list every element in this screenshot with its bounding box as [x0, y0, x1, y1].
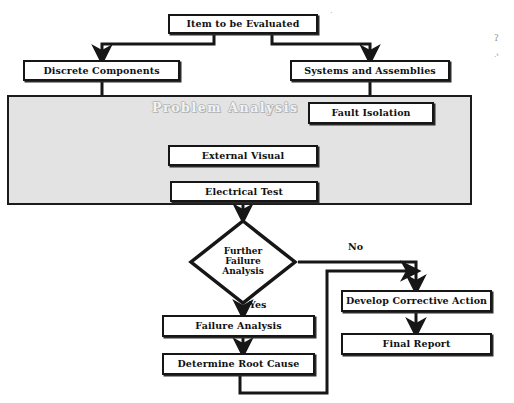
- node-fault-isolation[interactable]: Fault Isolation: [308, 102, 434, 124]
- scan-speck-icon-a: ʔ: [494, 33, 499, 43]
- node-fault-isolation-label: Fault Isolation: [331, 108, 410, 118]
- node-determine-root-cause[interactable]: Determine Root Cause: [162, 353, 315, 375]
- decision-label-line-3: Analysis: [222, 267, 264, 277]
- node-item-to-be-evaluated-label: Item to be Evaluated: [187, 19, 300, 29]
- node-final-report-label: Final Report: [383, 339, 451, 349]
- edge-label-no: No: [348, 241, 363, 252]
- node-external-visual[interactable]: External Visual: [168, 145, 318, 166]
- decision-label: Further Failure Analysis: [188, 218, 298, 306]
- node-systems-and-assemblies[interactable]: Systems and Assemblies: [290, 60, 450, 81]
- edge-item-to-systems: [272, 34, 370, 53]
- node-electrical-test-label: Electrical Test: [205, 187, 283, 197]
- node-determine-root-cause-label: Determine Root Cause: [178, 359, 300, 369]
- node-failure-analysis-label: Failure Analysis: [195, 321, 281, 331]
- node-develop-corrective-action[interactable]: Develop Corrective Action: [341, 290, 492, 312]
- edge-label-yes: Yes: [249, 299, 266, 310]
- node-failure-analysis[interactable]: Failure Analysis: [162, 315, 315, 337]
- problem-analysis-band-label: Problem Analysis: [152, 100, 299, 115]
- node-electrical-test[interactable]: Electrical Test: [170, 181, 318, 202]
- node-item-to-be-evaluated[interactable]: Item to be Evaluated: [168, 14, 318, 34]
- node-systems-and-assemblies-label: Systems and Assemblies: [304, 66, 436, 76]
- node-discrete-components-label: Discrete Components: [43, 66, 159, 76]
- edge-decision-no-to-corrective: [298, 262, 416, 283]
- node-discrete-components[interactable]: Discrete Components: [23, 60, 180, 81]
- decision-further-failure-analysis: Further Failure Analysis: [188, 218, 298, 306]
- node-external-visual-label: External Visual: [202, 151, 285, 161]
- flowchart-canvas: Problem Analysis: [0, 0, 514, 403]
- scan-speck-icon-b: ·ᵗ: [494, 52, 499, 61]
- edge-item-to-discrete: [102, 34, 214, 53]
- node-develop-corrective-action-label: Develop Corrective Action: [346, 296, 487, 306]
- scan-speck-icon-c: ·: [330, 8, 333, 17]
- node-final-report[interactable]: Final Report: [341, 333, 492, 355]
